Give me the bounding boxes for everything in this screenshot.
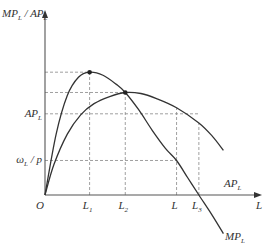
- x-tick-l1: L1: [82, 199, 93, 214]
- y-axis-label: MPL / APL: [1, 7, 48, 22]
- y-tick-ap-l: APL: [24, 107, 42, 122]
- key-point-0: [87, 70, 92, 75]
- labels: MPL / APL L O L1L2LL3APLωL / pAPLMPL: [1, 7, 262, 245]
- x-tick-l3: L3: [191, 199, 202, 214]
- production-curves-diagram: MPL / APL L O L1L2LL3APLωL / pAPLMPL: [0, 0, 270, 249]
- mp-curve-label: MPL: [224, 230, 245, 245]
- ap-curve-label: APL: [223, 177, 241, 192]
- x-tick-l2: L2: [117, 199, 128, 214]
- key-point-1: [123, 90, 128, 95]
- y-tick-wage-over-price: ωL / p: [16, 153, 42, 168]
- axes: [42, 10, 262, 198]
- x-axis-arrow-icon: [254, 192, 262, 198]
- ap-l-curve: [45, 92, 223, 195]
- key-points: [87, 70, 127, 95]
- x-tick-l: L: [171, 199, 178, 211]
- x-axis-label: L: [255, 199, 262, 211]
- origin-label: O: [36, 199, 44, 211]
